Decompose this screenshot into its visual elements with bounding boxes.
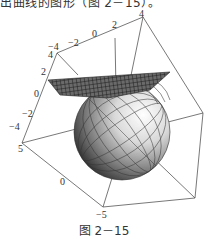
tick-left-0: 0 [34,88,39,99]
tick-bottom-0: 0 [60,176,65,187]
tick-left-2: 2 [41,66,46,77]
tick-left-minus2: −2 [22,108,33,119]
tick-top-4: 4 [139,8,144,19]
tick-left-4: 4 [48,49,53,60]
figure-caption: 图 2－15 [0,221,208,238]
sphere-plane-3d-plot: 4 2 0 −2 −4 4 2 0 −2 −4 5 0 −5 [0,0,208,241]
tick-bottom-5: 5 [18,143,23,154]
tick-top-0: 0 [92,28,97,39]
tick-top-2: 2 [112,19,117,30]
tick-bottom-minus5: −5 [96,209,107,220]
tick-top-minus2: −2 [68,37,79,48]
tick-left-minus4: −4 [9,121,20,132]
